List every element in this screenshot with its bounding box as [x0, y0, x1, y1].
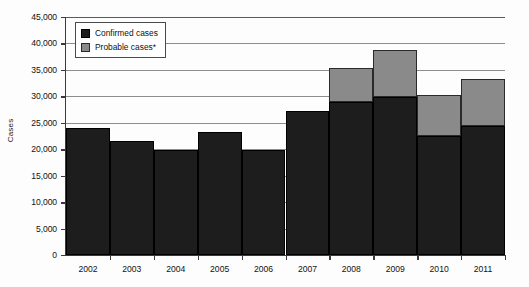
legend-swatch-probable-icon	[81, 43, 90, 52]
x-tick-label-2005: 2005	[210, 264, 229, 274]
x-tick-label-2006: 2006	[254, 264, 273, 274]
bar-segment-probable	[461, 79, 505, 126]
bar-segment-confirmed	[417, 136, 461, 255]
bar-segment-probable	[373, 50, 417, 97]
x-tick	[417, 255, 418, 260]
y-tick-label: 25,000	[31, 118, 57, 128]
bar-group	[242, 17, 286, 255]
bar-group	[461, 17, 505, 255]
bar-segment-confirmed	[242, 150, 286, 255]
bar-segment-confirmed	[286, 111, 330, 255]
bar-segment-probable	[417, 95, 461, 136]
bar-segment-confirmed	[66, 128, 110, 255]
y-tick-label: 0	[52, 250, 57, 260]
y-axis-title: Cases	[6, 101, 15, 161]
x-tick	[373, 255, 374, 260]
x-tick-label-2011: 2011	[474, 264, 492, 274]
y-tick-label: 30,000	[31, 91, 57, 101]
bar-segment-confirmed	[154, 150, 198, 255]
x-tick-label-2008: 2008	[342, 264, 361, 274]
bar-segment-confirmed	[110, 141, 154, 255]
bar-group	[286, 17, 330, 255]
x-tick	[154, 255, 155, 260]
bar-group	[373, 17, 417, 255]
bar-segment-confirmed	[198, 132, 242, 255]
x-tick-label-2004: 2004	[166, 264, 185, 274]
legend-swatch-confirmed-icon	[81, 29, 90, 38]
bar-chart: Cases 05,00010,00015,00020,00025,00030,0…	[0, 0, 529, 287]
y-tick-0	[61, 255, 66, 256]
y-tick-label: 45,000	[31, 12, 57, 22]
y-tick-label: 20,000	[31, 144, 57, 154]
bar-segment-confirmed	[461, 126, 505, 255]
y-tick-label: 40,000	[31, 38, 57, 48]
x-tick	[242, 255, 243, 260]
bar-segment-confirmed	[329, 102, 373, 255]
chart-legend: Confirmed cases Probable cases*	[75, 22, 166, 58]
x-tick-label-2003: 2003	[122, 264, 141, 274]
x-tick-label-2002: 2002	[78, 264, 97, 274]
x-tick-label-2009: 2009	[386, 264, 405, 274]
bar-group	[198, 17, 242, 255]
legend-label-confirmed: Confirmed cases	[95, 29, 158, 37]
bar-group	[417, 17, 461, 255]
x-tick	[329, 255, 330, 260]
legend-item-probable: Probable cases*	[81, 41, 158, 53]
x-tick	[110, 255, 111, 260]
x-tick	[198, 255, 199, 260]
y-tick-label: 35,000	[31, 65, 57, 75]
x-tick	[461, 255, 462, 260]
y-tick-label: 5,000	[36, 224, 57, 234]
legend-label-probable: Probable cases*	[95, 43, 156, 51]
x-tick	[505, 255, 506, 260]
x-tick-label-2010: 2010	[430, 264, 449, 274]
bar-group	[329, 17, 373, 255]
y-tick-label: 15,000	[31, 171, 57, 181]
bar-segment-confirmed	[373, 97, 417, 255]
legend-item-confirmed: Confirmed cases	[81, 27, 158, 39]
x-tick	[286, 255, 287, 260]
x-tick-label-2007: 2007	[298, 264, 317, 274]
bar-segment-probable	[329, 68, 373, 102]
y-tick-label: 10,000	[31, 197, 57, 207]
